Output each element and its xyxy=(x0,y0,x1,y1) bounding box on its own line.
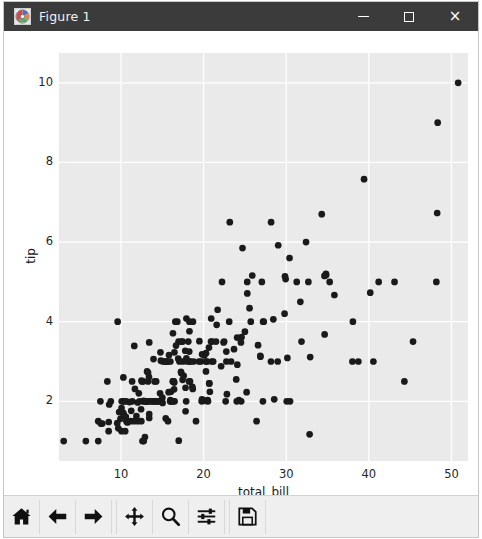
window-controls: × xyxy=(340,2,478,31)
sliders-icon xyxy=(196,506,217,527)
minimize-button[interactable] xyxy=(340,2,386,31)
maximize-icon xyxy=(404,12,414,22)
y-tick-label: 4 xyxy=(15,314,53,328)
y-tick-label: 2 xyxy=(15,393,53,407)
window-border-bottom xyxy=(3,537,479,538)
forward-button[interactable] xyxy=(76,500,112,534)
figure-canvas[interactable]: 246810 1020304050 total_bill tip xyxy=(4,31,478,495)
x-axis-label: total_bill xyxy=(204,485,324,495)
minimize-icon xyxy=(358,16,369,17)
window-titlebar[interactable]: Figure 1 × xyxy=(4,2,478,31)
window-border-right xyxy=(478,2,479,537)
navigation-toolbar xyxy=(4,495,478,537)
home-icon xyxy=(11,506,32,527)
arrow-left-icon xyxy=(47,506,68,527)
close-button[interactable]: × xyxy=(432,2,478,31)
arrow-right-icon xyxy=(83,506,104,527)
configure-subplots-button[interactable] xyxy=(189,500,225,534)
pan-button[interactable] xyxy=(117,500,153,534)
scatter-points xyxy=(59,53,468,461)
y-tick-label: 10 xyxy=(15,75,53,89)
x-tick-label: 50 xyxy=(431,467,471,481)
close-icon: × xyxy=(449,9,462,24)
figure-window: Figure 1 × 246810 1020304050 total_bill … xyxy=(0,0,482,539)
zoom-button[interactable] xyxy=(153,500,189,534)
window-title: Figure 1 xyxy=(39,9,91,24)
maximize-button[interactable] xyxy=(386,2,432,31)
floppy-disk-icon xyxy=(237,506,258,527)
x-tick-label: 10 xyxy=(101,467,141,481)
home-button[interactable] xyxy=(4,500,40,534)
x-tick-label: 40 xyxy=(349,467,389,481)
magnifier-icon xyxy=(160,506,181,527)
move-icon xyxy=(124,506,145,527)
matplotlib-icon xyxy=(14,8,31,25)
y-axis-label: tip xyxy=(24,236,38,276)
x-tick-label: 30 xyxy=(266,467,306,481)
scatter-plot-axes[interactable] xyxy=(59,53,468,461)
x-tick-label: 20 xyxy=(184,467,224,481)
back-button[interactable] xyxy=(40,500,76,534)
save-button[interactable] xyxy=(230,500,266,534)
y-tick-label: 8 xyxy=(15,154,53,168)
